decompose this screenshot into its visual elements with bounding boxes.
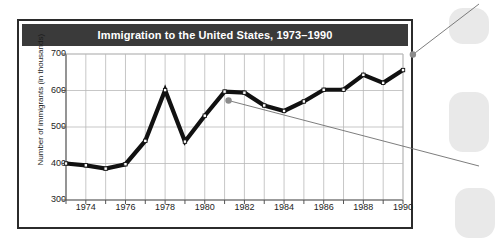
chart-title-bar: Immigration to the United States, 1973–1… bbox=[22, 24, 408, 46]
data-point bbox=[144, 139, 147, 142]
data-point bbox=[302, 100, 305, 103]
data-point bbox=[401, 68, 404, 71]
data-point bbox=[322, 88, 325, 91]
data-point bbox=[104, 167, 107, 170]
axis-ticks bbox=[62, 54, 403, 204]
data-point bbox=[243, 91, 246, 94]
plot-svg bbox=[22, 48, 408, 226]
chart-title: Immigration to the United States, 1973–1… bbox=[98, 29, 333, 41]
decorative-blob bbox=[449, 92, 489, 152]
data-point bbox=[84, 164, 87, 167]
data-point bbox=[282, 109, 285, 112]
series-line bbox=[66, 70, 403, 169]
data-point bbox=[223, 90, 226, 93]
data-point bbox=[342, 88, 345, 91]
gridlines bbox=[66, 54, 403, 200]
data-point bbox=[203, 114, 206, 117]
data-point bbox=[362, 73, 365, 76]
decorative-blob bbox=[455, 188, 495, 238]
data-point bbox=[183, 140, 186, 143]
data-point bbox=[64, 162, 67, 165]
data-point bbox=[163, 88, 166, 91]
plot-area: Number of immigrants (in thousands) 3004… bbox=[22, 48, 408, 226]
chart-card: Immigration to the United States, 1973–1… bbox=[17, 19, 413, 229]
data-point bbox=[124, 163, 127, 166]
data-point bbox=[381, 81, 384, 84]
data-point bbox=[263, 104, 266, 107]
decorative-blob bbox=[449, 8, 489, 44]
